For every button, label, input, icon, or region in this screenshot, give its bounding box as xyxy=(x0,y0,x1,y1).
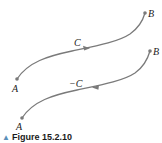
caption-text: Figure 15.2.10 xyxy=(12,132,72,142)
label-a-bottom: A xyxy=(16,122,22,132)
curves-diagram xyxy=(0,0,162,143)
figure-caption: ▲Figure 15.2.10 xyxy=(2,133,72,142)
point-b-top xyxy=(143,11,147,15)
label-c: C xyxy=(74,38,81,48)
point-a-top xyxy=(15,77,19,81)
label-b-bottom: B xyxy=(153,47,159,57)
label-b-top: B xyxy=(148,9,154,19)
label-a-top: A xyxy=(12,84,18,94)
point-b-bottom xyxy=(148,49,152,53)
arrow-icon-forward xyxy=(83,46,90,51)
curve-minus-c xyxy=(22,51,150,118)
curve-c xyxy=(17,13,145,79)
triangle-marker-icon: ▲ xyxy=(2,133,10,142)
label-minus-c: −C xyxy=(69,79,82,89)
point-a-bottom xyxy=(20,116,24,120)
